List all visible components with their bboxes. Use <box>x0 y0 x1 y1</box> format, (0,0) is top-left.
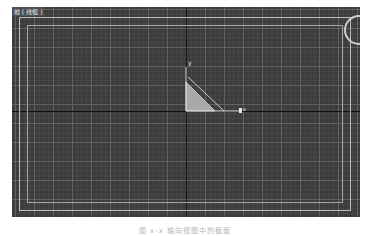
scene-shapes: y x <box>12 7 360 217</box>
viewport[interactable]: 前 [ 线框 ] y x <box>12 7 360 217</box>
gizmo-x-handle-icon[interactable] <box>239 108 242 113</box>
triangle-shape[interactable] <box>186 82 215 111</box>
gizmo-x-label: x <box>243 106 246 112</box>
gizmo-y-label: y <box>188 59 192 67</box>
figure-caption: 图 x-x 轴向视图中的截面 <box>0 225 370 235</box>
